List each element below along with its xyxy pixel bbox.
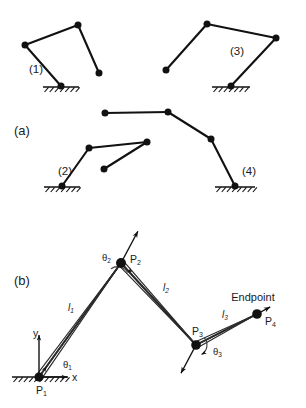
joint-p4-label: P4 xyxy=(265,315,276,328)
panel-a-group: (1)(3)(2)(4) xyxy=(22,21,280,193)
linkage-2-label: (2) xyxy=(58,165,72,177)
link-l1-length-label: l1 xyxy=(68,302,74,314)
theta3-direction-arrow xyxy=(179,366,187,374)
linkage-2-node-free xyxy=(101,166,108,173)
theta3-arc-head xyxy=(201,350,207,356)
figure-text-group: (a) (b) xyxy=(14,123,30,288)
angle-theta2-label: θ2 xyxy=(102,252,111,264)
joint-p2-label: P2 xyxy=(130,253,141,266)
linkage-4: (4) xyxy=(102,109,257,193)
linkage-4-node-ground xyxy=(232,183,239,190)
angle-theta1-label: θ1 xyxy=(63,359,72,371)
linkage-3-node-a xyxy=(204,21,211,28)
theta2-direction-arrow xyxy=(133,230,141,238)
linkage-1-node-ground xyxy=(58,83,65,90)
linkage-2-node-b xyxy=(86,145,93,152)
y-axis-label: y xyxy=(33,327,39,339)
linkage-3-bar-0 xyxy=(207,24,276,38)
link-l1-bar xyxy=(36,263,121,379)
linkage-4-node-a xyxy=(102,110,109,117)
joint-p3 xyxy=(191,340,201,350)
joint-p1 xyxy=(34,372,43,381)
linkage-1-node-c xyxy=(96,70,103,77)
linkage-3-node-ground xyxy=(228,83,235,90)
linkage-4-node-c xyxy=(208,136,215,143)
linkage-3-bar-1 xyxy=(166,24,207,70)
panel-b-group: P1P2P3P4l1l2l3θ1θ2θ3Endpointxy xyxy=(12,230,276,397)
endpoint-direction-arrow xyxy=(263,305,271,313)
joint-p2 xyxy=(116,258,126,268)
linkage-1-bar-0 xyxy=(25,25,78,45)
linkage-3-node-b xyxy=(273,35,280,42)
linkage-3: (3) xyxy=(163,21,280,93)
panel-label-a: (a) xyxy=(14,123,30,138)
linkage-1: (1) xyxy=(22,22,103,93)
link-l2-length-label: l2 xyxy=(163,282,169,294)
theta3-direction-arrow-shaft xyxy=(181,345,196,373)
joint-p3-label: P3 xyxy=(192,325,203,338)
linkage-1-node-a xyxy=(22,42,29,49)
linkage-1-node-b xyxy=(75,22,82,29)
linkage-3-node-c xyxy=(163,67,170,74)
linkage-4-node-b xyxy=(165,109,172,116)
x-axis-label: x xyxy=(72,371,78,383)
linkage-2-node-c xyxy=(144,139,151,146)
joint-p1-label: P1 xyxy=(36,384,47,397)
link-l3-length-label: l3 xyxy=(222,309,228,321)
linkage-4-bar-1 xyxy=(168,112,211,139)
linkage-2-node-ground xyxy=(59,183,66,190)
angle-theta3-label: θ3 xyxy=(213,346,222,358)
linkage-1-bar-1 xyxy=(78,25,99,73)
linkage-1-label: (1) xyxy=(29,63,43,75)
linkage-3-label: (3) xyxy=(230,45,244,57)
endpoint-label: Endpoint xyxy=(231,291,274,303)
joint-p4 xyxy=(252,309,262,319)
kinematics-figure: (1)(3)(2)(4) P1P2P3P4l1l2l3θ1θ2θ3Endpoin… xyxy=(0,0,306,408)
linkage-4-label: (4) xyxy=(242,165,256,177)
linkage-2: (2) xyxy=(44,139,151,193)
figure-canvas: (1)(3)(2)(4) P1P2P3P4l1l2l3θ1θ2θ3Endpoin… xyxy=(0,0,306,408)
linkage-4-bar-2 xyxy=(211,139,235,186)
linkage-4-bar-0 xyxy=(105,112,168,113)
link-l2-bar xyxy=(119,261,196,345)
panel-label-b: (b) xyxy=(14,273,30,288)
